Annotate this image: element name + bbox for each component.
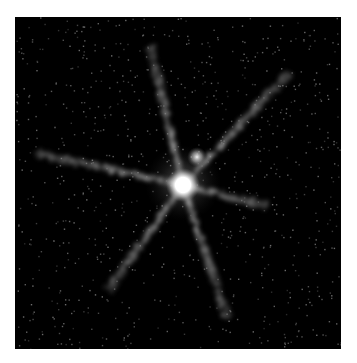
star-image <box>0 0 357 363</box>
companion-star <box>187 147 207 167</box>
primary-star <box>166 168 200 202</box>
